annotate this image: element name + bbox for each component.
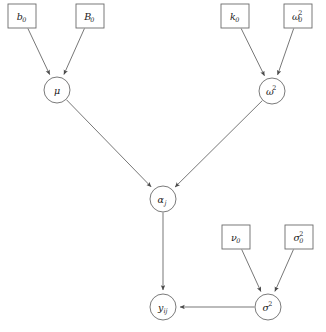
node-subscript-omega02: 0: [298, 16, 302, 24]
node-sigma02[interactable]: σ02: [285, 225, 313, 249]
node-yij[interactable]: yij: [150, 294, 176, 320]
node-alphaj[interactable]: αj: [150, 186, 176, 212]
edge-B0-to-mu: [64, 29, 85, 75]
node-B0[interactable]: B0: [76, 4, 104, 28]
node-omega2[interactable]: ω2: [259, 78, 285, 104]
node-mu[interactable]: μ: [44, 77, 70, 103]
node-omega02[interactable]: ω02: [284, 4, 312, 28]
edge-mu-to-alphaj: [66, 100, 151, 187]
node-layer: b0B0k0ω02μω2αjν0σ02yijσ2: [8, 4, 313, 320]
node-superscript-sigma2: 2: [268, 300, 272, 308]
node-sigma2[interactable]: σ2: [255, 294, 281, 320]
edge-nu0-to-sigma2: [242, 250, 261, 292]
edge-layer: [28, 29, 294, 308]
node-subscript-yij: ij: [163, 307, 167, 315]
node-superscript-omega02: 2: [298, 9, 302, 17]
node-b0[interactable]: b0: [8, 4, 36, 28]
node-superscript-omega2: 2: [272, 84, 276, 92]
edge-omega02-to-omega2: [278, 29, 294, 75]
edge-b0-to-mu: [28, 29, 50, 75]
edge-k0-to-omega2: [241, 29, 264, 76]
node-label-mu: μ: [54, 85, 60, 96]
diagram-canvas: b0B0k0ω02μω2αjν0σ02yijσ2: [0, 0, 326, 332]
node-subscript-k0: 0: [235, 16, 239, 24]
edge-sigma02-to-sigma2: [275, 250, 294, 292]
dag-graphic: b0B0k0ω02μω2αjν0σ02yijσ2: [0, 0, 326, 332]
node-subscript-B0: 0: [90, 16, 94, 24]
node-subscript-b0: 0: [22, 16, 26, 24]
node-k0[interactable]: k0: [221, 4, 249, 28]
edge-omega2-to-alphaj: [175, 101, 262, 188]
node-superscript-sigma02: 2: [299, 230, 303, 238]
node-nu0[interactable]: ν0: [222, 225, 250, 249]
node-subscript-nu0: 0: [236, 237, 240, 245]
node-subscript-sigma02: 0: [299, 237, 303, 245]
